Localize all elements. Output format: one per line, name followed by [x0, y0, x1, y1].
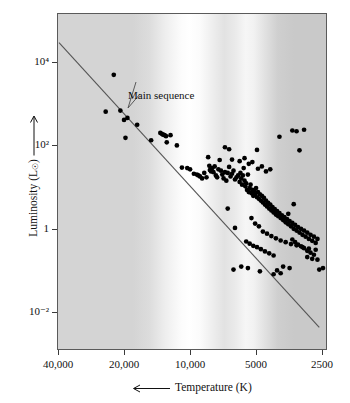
y-tick-label: 10⁻²: [0, 305, 49, 318]
star-point: [231, 168, 236, 173]
scatter-plot-canvas: [58, 14, 327, 350]
star-point: [291, 202, 296, 207]
star-point: [305, 255, 310, 260]
plot-area: [57, 13, 327, 350]
star-point: [261, 229, 266, 234]
star-point: [249, 216, 254, 221]
star-point: [260, 164, 265, 169]
star-point: [315, 257, 320, 262]
y-tick-mark: [52, 229, 57, 230]
star-point: [297, 148, 302, 153]
star-point: [223, 145, 228, 150]
star-data-points: [103, 72, 325, 276]
x-tick-label: 40,000: [23, 358, 93, 370]
star-point: [239, 264, 244, 269]
y-tick-mark: [52, 312, 57, 313]
x-tick-label: 20,000: [89, 358, 159, 370]
star-point: [175, 143, 180, 148]
star-point: [286, 211, 291, 216]
star-point: [246, 266, 251, 271]
star-point: [259, 247, 264, 252]
star-point: [256, 166, 261, 171]
star-point: [264, 169, 269, 174]
y-tick-label: 10²: [0, 138, 49, 150]
star-point: [231, 267, 236, 272]
star-point: [248, 182, 253, 187]
star-point: [310, 256, 315, 261]
star-point: [225, 206, 230, 211]
star-point: [180, 165, 185, 170]
y-tick-mark: [52, 145, 57, 146]
star-point: [269, 234, 274, 239]
y-axis-title-text: Luminosity (L☉): [27, 112, 39, 236]
star-point: [215, 175, 220, 180]
star-point: [244, 181, 249, 186]
star-point: [164, 140, 169, 145]
star-point: [103, 109, 108, 114]
star-point: [274, 236, 279, 241]
star-point: [188, 167, 193, 172]
star-point: [125, 116, 130, 121]
star-point: [200, 176, 205, 181]
star-point: [287, 266, 292, 271]
star-point: [202, 171, 207, 176]
star-point: [227, 147, 232, 152]
star-point: [281, 264, 286, 269]
main-sequence-trendline: [59, 43, 319, 328]
star-point: [149, 138, 154, 143]
star-point: [290, 128, 295, 133]
hr-diagram-figure: 10⁴10²110⁻² 40,00020,00010,00050002500 L…: [0, 0, 350, 403]
x-tick-mark: [58, 350, 59, 355]
star-point: [271, 253, 276, 258]
star-point: [254, 186, 259, 191]
x-tick-label: 2500: [287, 358, 350, 370]
x-axis-title: Temperature (K): [57, 381, 327, 393]
y-tick-mark: [52, 62, 57, 63]
star-point: [135, 122, 140, 127]
star-point: [246, 172, 251, 177]
star-point: [250, 160, 255, 165]
star-point: [268, 167, 273, 172]
star-point: [241, 166, 246, 171]
star-point: [255, 148, 260, 153]
x-tick-label: 5000: [221, 358, 291, 370]
star-point: [278, 271, 283, 276]
star-point: [111, 72, 116, 77]
star-point: [315, 237, 320, 242]
star-point: [123, 135, 128, 140]
x-tick-label: 10,000: [155, 358, 225, 370]
star-point: [164, 134, 169, 139]
star-point: [267, 251, 272, 256]
star-point: [312, 252, 317, 257]
y-axis-direction-arrow: [29, 112, 38, 156]
star-point: [242, 156, 247, 161]
star-point: [237, 159, 242, 164]
x-axis-direction-arrow: [132, 384, 172, 393]
star-point: [224, 178, 229, 183]
x-axis-title-text: Temperature (K): [132, 381, 251, 393]
star-point: [241, 173, 246, 178]
star-point: [257, 224, 262, 229]
x-tick-mark: [124, 350, 125, 355]
star-point: [206, 155, 211, 160]
star-point: [263, 249, 268, 254]
y-tick-label: 1: [0, 222, 49, 234]
y-tick-label: 10⁴: [0, 55, 49, 67]
x-tick-mark: [256, 350, 257, 355]
star-point: [204, 175, 209, 180]
star-point: [313, 241, 318, 246]
star-point: [289, 242, 294, 247]
main-sequence-annotation: Main sequence: [128, 89, 194, 101]
star-point: [321, 266, 326, 271]
star-point: [278, 238, 283, 243]
star-point: [302, 127, 307, 132]
star-point: [227, 165, 232, 170]
main-sequence-line: [59, 43, 319, 328]
sun-symbol: ☉: [31, 163, 40, 170]
star-point: [283, 240, 288, 245]
star-point: [294, 129, 299, 134]
x-tick-mark: [190, 350, 191, 355]
star-point: [233, 226, 238, 231]
star-point: [313, 247, 318, 252]
x-tick-mark: [322, 350, 323, 355]
